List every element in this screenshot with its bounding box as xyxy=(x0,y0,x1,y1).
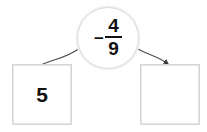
arrow-left-path xyxy=(43,48,80,64)
operation-circle[interactable]: − 4 9 xyxy=(77,7,139,69)
left-answer-box[interactable]: 5 xyxy=(13,65,71,124)
fraction: 4 9 xyxy=(105,16,122,59)
minus-sign-icon: − xyxy=(94,30,103,47)
fraction-operation-widget: − 4 9 5 xyxy=(0,0,207,132)
left-answer-value: 5 xyxy=(36,84,48,105)
fraction-denominator: 9 xyxy=(107,39,120,58)
fraction-numerator: 4 xyxy=(107,16,120,35)
right-answer-box[interactable] xyxy=(141,65,199,124)
arrow-right-path xyxy=(136,48,168,64)
operation-expression: − 4 9 xyxy=(94,16,122,59)
